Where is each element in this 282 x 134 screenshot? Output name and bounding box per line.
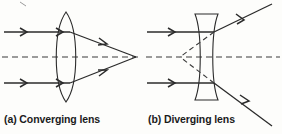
- virtual-ray-upper-b: [180, 32, 214, 57]
- scan-artifact: [20, 2, 26, 6]
- caption-converging-lens: (a) Converging lens: [4, 113, 100, 125]
- virtual-ray-lower-b: [180, 57, 214, 83]
- panel-diverging-lens: [146, 4, 280, 126]
- ray-arrowhead-refracted-upper-a: [98, 38, 107, 45]
- refracted-ray-upper-b: [214, 4, 272, 32]
- figure-container: (a) Converging lens (b) Diverging lens: [0, 0, 282, 134]
- panel-converging-lens: [2, 2, 138, 102]
- caption-diverging-lens: (b) Diverging lens: [148, 113, 235, 125]
